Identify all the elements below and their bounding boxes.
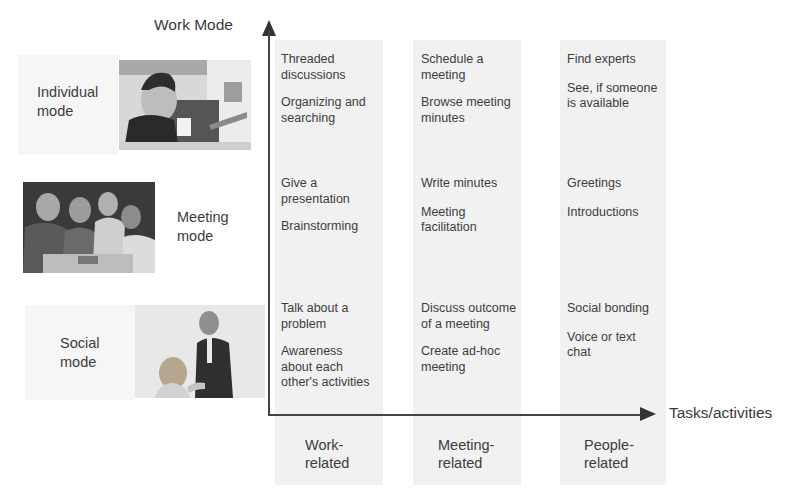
cell-meeting-people: Greetings Introductions (567, 176, 692, 232)
activity-give-presentation: Give a presentation (281, 176, 406, 207)
y-axis-line (268, 30, 270, 416)
column-label-people-related: People- related (584, 436, 634, 472)
x-axis-title: Tasks/activities (669, 404, 772, 422)
activity-voice-or-text-chat: Voice or text chat (567, 330, 692, 361)
handshake-greeting-photo (135, 305, 265, 398)
activity-discuss-meeting-outcome: Discuss outcome of a meeting (421, 301, 546, 332)
cell-meeting-work: Give a presentation Brainstorming (281, 176, 406, 247)
activity-schedule-meeting: Schedule a meeting (421, 52, 546, 83)
activity-organizing-and-searching: Organizing and searching (281, 95, 406, 126)
activity-browse-meeting-minutes: Browse meeting minutes (421, 95, 546, 126)
activity-social-bonding: Social bonding (567, 301, 692, 317)
row-label-social: Social mode (60, 334, 100, 372)
row-label-meeting: Meeting mode (177, 208, 229, 246)
cell-social-meeting: Discuss outcome of a meeting Create ad-h… (421, 301, 546, 387)
activity-brainstorming: Brainstorming (281, 219, 406, 235)
y-axis-title: Work Mode (154, 16, 233, 34)
column-label-meeting-related: Meeting- related (438, 436, 494, 472)
activity-create-adhoc-meeting: Create ad-hoc meeting (421, 344, 546, 375)
activity-see-if-available: See, if someone is available (567, 81, 692, 112)
activity-meeting-facilitation: Meeting facilitation (421, 205, 546, 236)
activity-awareness-of-activities: Awareness about each other's activities (281, 344, 406, 391)
activity-write-minutes: Write minutes (421, 176, 546, 192)
x-axis-arrow-icon (640, 407, 656, 421)
activity-greetings: Greetings (567, 176, 692, 192)
column-label-work-related: Work- related (305, 436, 349, 472)
activity-talk-about-problem: Talk about a problem (281, 301, 406, 332)
group-meeting-photo (23, 182, 155, 273)
person-thinking-photo (119, 60, 251, 150)
x-axis-line (268, 414, 642, 416)
activity-threaded-discussions: Threaded discussions (281, 52, 406, 83)
cell-social-work: Talk about a problem Awareness about eac… (281, 301, 406, 403)
activity-find-experts: Find experts (567, 52, 692, 68)
cell-individual-meeting: Schedule a meeting Browse meeting minute… (421, 52, 546, 138)
person-thinking-image-icon (119, 60, 251, 150)
cell-individual-people: Find experts See, if someone is availabl… (567, 52, 692, 124)
row-label-individual: Individual mode (37, 83, 98, 121)
group-meeting-image-icon (23, 182, 155, 273)
cell-meeting-meeting: Write minutes Meeting facilitation (421, 176, 546, 248)
cell-social-people: Social bonding Voice or text chat (567, 301, 692, 373)
cell-individual-work: Threaded discussions Organizing and sear… (281, 52, 406, 138)
handshake-greeting-image-icon (135, 305, 265, 398)
activity-introductions: Introductions (567, 205, 692, 221)
